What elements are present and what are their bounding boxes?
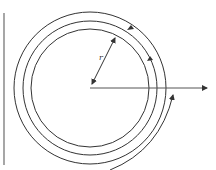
radius-double-arrow [92, 38, 115, 84]
middle-loop-arrow-icon [147, 56, 153, 61]
radius-label: r [99, 53, 103, 62]
diagram-canvas [0, 0, 216, 170]
